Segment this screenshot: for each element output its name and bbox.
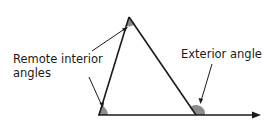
remote-interior-label-line1: Remote interior: [13, 52, 103, 66]
exterior-angle-label: Exterior angle: [181, 47, 262, 61]
remote-interior-label-line2: angles: [13, 66, 51, 80]
pointer-to-base-left: [89, 77, 102, 106]
right-side: [129, 17, 196, 115]
ray-arrowhead-icon: [252, 112, 261, 119]
diagram-canvas: Remote interior angles Exterior angle: [0, 0, 273, 131]
pointer-exterior-arrow-icon: [199, 98, 204, 104]
pointer-to-exterior: [201, 64, 212, 101]
pointer-apex-arrow-icon: [122, 27, 128, 32]
pointer-to-apex: [92, 28, 126, 51]
